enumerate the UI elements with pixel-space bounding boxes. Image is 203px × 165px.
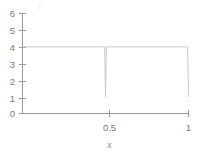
y-tick-label-1: 1 bbox=[10, 93, 15, 104]
x-axis-title: x bbox=[106, 139, 112, 150]
x-tick-label-1: 1 bbox=[186, 122, 191, 133]
y-tick-label-4: 4 bbox=[10, 42, 15, 53]
y-axis-title: y bbox=[37, 0, 42, 10]
y-tick-label-5: 5 bbox=[10, 25, 15, 36]
y-tick-label-0: 0 bbox=[10, 108, 15, 119]
y-tick-label-2: 2 bbox=[10, 76, 15, 87]
chart-figure: y 6 5 4 3 2 1 0 0.5 1 x bbox=[0, 0, 203, 165]
y-tick-label-3: 3 bbox=[10, 59, 15, 70]
x-tick-label-0-5: 0.5 bbox=[103, 122, 116, 133]
y-tick-label-6: 6 bbox=[10, 8, 15, 19]
line-chart: y 6 5 4 3 2 1 0 0.5 1 x bbox=[0, 0, 203, 165]
data-series-line bbox=[23, 47, 189, 97]
